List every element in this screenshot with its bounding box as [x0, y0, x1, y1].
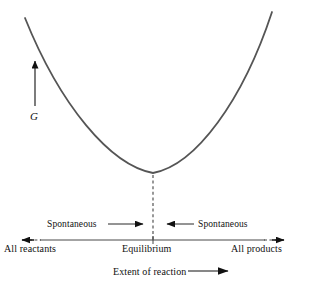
- x-tick-label-equilibrium: Equilibrium: [122, 243, 171, 254]
- x-axis-title: Extent of reaction: [113, 266, 186, 277]
- x-tick-label-all-products: All products: [231, 243, 282, 254]
- gibbs-energy-diagram: G Spontaneous Spontaneous All reactants …: [0, 0, 310, 290]
- y-axis-label-g: G: [30, 110, 38, 122]
- gibbs-energy-curve: [25, 12, 272, 173]
- x-tick-label-all-reactants: All reactants: [4, 243, 56, 254]
- spontaneous-label-right: Spontaneous: [198, 219, 248, 229]
- spontaneous-label-left: Spontaneous: [47, 219, 97, 229]
